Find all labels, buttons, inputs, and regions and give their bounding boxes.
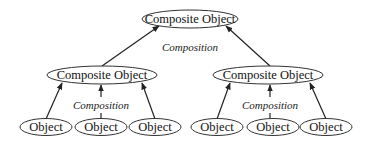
edge-right-leaf3 xyxy=(310,83,326,119)
node-left-object-1: Object xyxy=(20,119,72,136)
edge-left-leaf3 xyxy=(142,83,155,119)
node-left-object-2: Object xyxy=(75,119,127,136)
node-right-composite-label: Composite Object xyxy=(223,68,314,82)
node-right-object-2-label: Object xyxy=(256,120,290,134)
edge-right-leaf1 xyxy=(217,83,230,119)
node-right-object-1: Object xyxy=(191,119,243,136)
edge-left-to-root xyxy=(102,26,159,66)
left-relation-label: Composition xyxy=(73,99,130,111)
node-left-object-2-label: Object xyxy=(84,120,118,134)
right-relation-label: Composition xyxy=(242,99,299,111)
node-right-object-1-label: Object xyxy=(200,120,234,134)
node-left-composite: Composite Object xyxy=(47,66,157,84)
node-right-object-3: Object xyxy=(300,119,352,136)
edge-left-leaf1 xyxy=(46,83,62,119)
node-right-composite: Composite Object xyxy=(213,66,323,84)
node-left-object-1-label: Object xyxy=(29,120,63,134)
edge-right-to-root xyxy=(226,26,270,66)
node-root: Composite Object xyxy=(142,10,238,28)
composition-diagram: Composite Object Composition Composite O… xyxy=(0,0,369,145)
node-root-label: Composite Object xyxy=(145,12,236,26)
node-right-object-3-label: Object xyxy=(309,120,343,134)
node-right-object-2: Object xyxy=(247,119,299,136)
node-left-object-3: Object xyxy=(129,119,181,136)
node-left-object-3-label: Object xyxy=(138,120,172,134)
root-relation-label: Composition xyxy=(162,41,219,53)
node-left-composite-label: Composite Object xyxy=(57,68,148,82)
